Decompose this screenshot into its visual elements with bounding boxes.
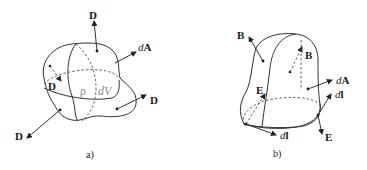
caption-b: b) xyxy=(273,148,281,160)
label-rho: ρ xyxy=(80,84,86,98)
surface-fold xyxy=(262,34,296,127)
label-d-right: D xyxy=(150,94,158,106)
label-dl-bottom: dl xyxy=(280,129,289,141)
meridian-front xyxy=(68,44,78,121)
label-d-bottom-left: D xyxy=(15,130,23,142)
panel-a: D dA D ρ dV D D a) xyxy=(15,9,158,161)
label-da-b: dA xyxy=(336,74,350,86)
surface-outline xyxy=(240,34,320,128)
label-dl-right: dl xyxy=(335,88,344,100)
meridian-back xyxy=(76,44,96,121)
label-e-left: E xyxy=(256,84,263,96)
panel-b: B B dA dl E E dl b) xyxy=(237,29,350,160)
label-dv: dV xyxy=(98,84,113,98)
label-da: dA xyxy=(138,41,152,53)
volume-outline xyxy=(43,43,136,120)
label-d-inner: D xyxy=(48,80,56,92)
diagram-canvas: D dA D ρ dV D D a) B xyxy=(0,0,367,170)
label-e-right: E xyxy=(325,131,332,143)
caption-a: a) xyxy=(86,149,94,161)
label-b-inner: B xyxy=(305,49,313,61)
boundary-front xyxy=(244,104,320,128)
label-d-top: D xyxy=(89,9,97,21)
label-b-outer: B xyxy=(237,29,245,41)
